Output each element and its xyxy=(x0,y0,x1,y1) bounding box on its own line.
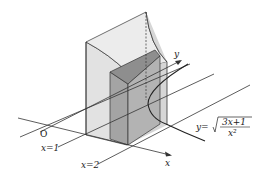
y-axis-label: y xyxy=(173,49,180,59)
x2-label: x=2 xyxy=(81,160,100,170)
cross-section-front xyxy=(110,72,128,145)
x-axis-arrow xyxy=(165,152,172,157)
curve-equation: y= 3x+1 x² xyxy=(195,117,252,138)
x-axis-label: x xyxy=(165,158,170,168)
x1-label: x=1 xyxy=(41,143,59,153)
solid-diagram: y x O x=1 x=2 y= 3x+1 x² xyxy=(0,0,265,181)
y-axis-arrow xyxy=(175,60,182,65)
equation-lhs: y= xyxy=(195,122,209,132)
origin-label: O xyxy=(40,129,47,139)
equation-numerator: 3x+1 xyxy=(222,117,246,127)
equation-denominator: x² xyxy=(228,128,237,138)
